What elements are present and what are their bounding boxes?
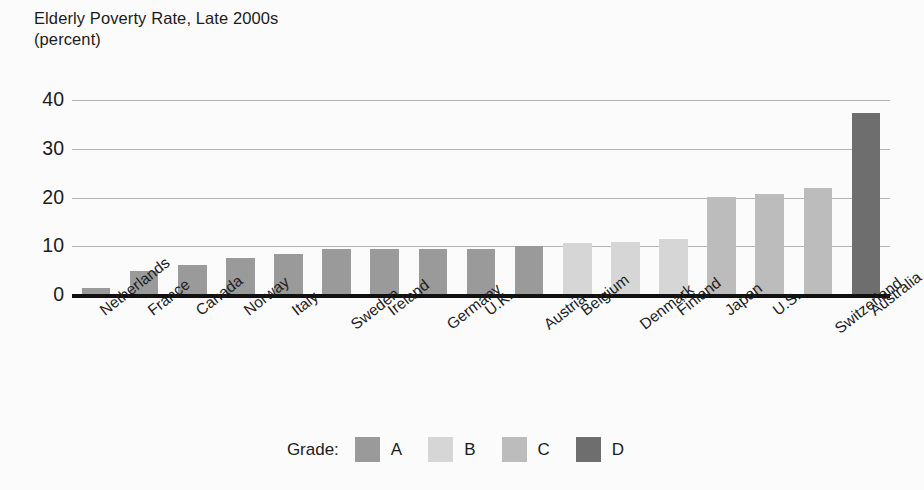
legend-label-b: B xyxy=(464,440,475,460)
legend-swatch-b xyxy=(428,437,453,462)
y-axis-tick-20: 20 xyxy=(12,188,64,208)
legend-swatch-d xyxy=(576,437,601,462)
bar-switzerland xyxy=(804,188,833,295)
y-axis-tick-40: 40 xyxy=(12,90,64,110)
bar-australia xyxy=(852,113,881,295)
legend-label-d: D xyxy=(612,440,624,460)
legend-item-a[interactable]: A xyxy=(355,437,402,462)
bar-austria xyxy=(515,246,544,295)
bar-belgium xyxy=(563,243,592,295)
legend-label-c: C xyxy=(538,440,550,460)
y-axis-tick-30: 30 xyxy=(12,139,64,159)
y-axis-tick-10: 10 xyxy=(12,236,64,256)
legend-item-d[interactable]: D xyxy=(576,437,624,462)
bar-u-s xyxy=(755,194,784,295)
bar-series xyxy=(72,100,890,295)
legend-swatch-c xyxy=(502,437,527,462)
x-axis-labels: NetherlandsFranceCanadaNorwayItalySweden… xyxy=(0,298,911,428)
legend-title: Grade: xyxy=(287,440,339,460)
legend-item-c[interactable]: C xyxy=(502,437,550,462)
chart-legend: Grade: ABCD xyxy=(0,437,911,462)
legend-label-a: A xyxy=(391,440,402,460)
legend-item-b[interactable]: B xyxy=(428,437,475,462)
bar-sweden xyxy=(322,249,351,295)
legend-swatch-a xyxy=(355,437,380,462)
